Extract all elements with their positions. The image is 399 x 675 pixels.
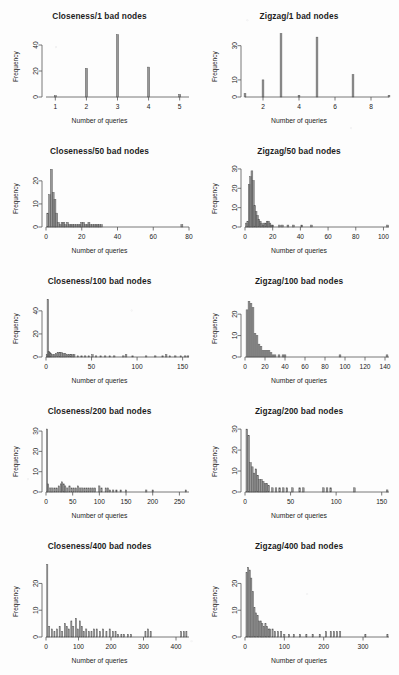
svg-text:20: 20 <box>32 330 39 338</box>
x-axis-label: Number of queries <box>0 117 199 124</box>
svg-text:3: 3 <box>116 103 120 110</box>
svg-text:10: 10 <box>231 606 238 614</box>
plot-panel: Zigzag/200 bad nodes 0501001500102030Num… <box>199 395 399 530</box>
y-axis-label: Frequency <box>211 446 218 477</box>
plot-title: Closeness/1 bad nodes <box>0 11 199 21</box>
figure-grid: Closeness/1 bad nodes 1234502040Number o… <box>0 0 399 675</box>
svg-text:0: 0 <box>32 635 39 639</box>
svg-text:400: 400 <box>170 643 181 650</box>
svg-text:40: 40 <box>114 233 122 240</box>
svg-text:50: 50 <box>69 498 77 505</box>
svg-text:20: 20 <box>32 447 39 455</box>
svg-text:5: 5 <box>178 103 182 110</box>
svg-text:300: 300 <box>358 643 369 650</box>
svg-text:8: 8 <box>369 103 373 110</box>
svg-text:20: 20 <box>231 310 238 318</box>
plot-title: Zigzag/400 bad nodes <box>199 541 399 551</box>
svg-text:0: 0 <box>231 355 238 359</box>
svg-text:0: 0 <box>231 95 238 99</box>
svg-text:20: 20 <box>231 446 238 454</box>
plot-panel: Closeness/50 bad nodes 02040608001020Num… <box>0 135 199 265</box>
svg-text:80: 80 <box>321 363 329 370</box>
svg-text:0: 0 <box>231 225 238 229</box>
plot-title: Zigzag/200 bad nodes <box>199 406 399 416</box>
svg-text:0: 0 <box>44 233 48 240</box>
plot-title: Zigzag/50 bad nodes <box>199 146 399 156</box>
svg-text:150: 150 <box>376 498 387 505</box>
plot-panel: Closeness/400 bad nodes 0100200300400010… <box>0 530 199 675</box>
svg-text:10: 10 <box>231 467 238 475</box>
svg-text:100: 100 <box>279 643 290 650</box>
svg-text:1: 1 <box>53 103 57 110</box>
svg-text:0: 0 <box>231 635 238 639</box>
plot-area: 0204060801000102030Number of queriesFreq… <box>199 159 399 265</box>
plot-title: Zigzag/100 bad nodes <box>199 276 399 286</box>
svg-text:30: 30 <box>231 165 238 173</box>
plot-panel: Zigzag/400 bad nodes 010020030001020Numb… <box>199 530 399 675</box>
svg-text:150: 150 <box>177 363 188 370</box>
svg-text:20: 20 <box>261 363 269 370</box>
svg-text:60: 60 <box>301 363 309 370</box>
svg-text:30: 30 <box>231 42 238 50</box>
svg-text:40: 40 <box>32 307 39 315</box>
svg-text:0: 0 <box>44 643 48 650</box>
svg-text:0: 0 <box>44 363 48 370</box>
svg-text:100: 100 <box>94 498 105 505</box>
svg-text:300: 300 <box>138 643 149 650</box>
svg-text:250: 250 <box>174 498 185 505</box>
svg-text:0: 0 <box>32 355 39 359</box>
svg-text:50: 50 <box>88 363 96 370</box>
svg-text:2: 2 <box>85 103 89 110</box>
plot-panel: Zigzag/1 bad nodes 246801030Number of qu… <box>199 0 399 135</box>
plot-area: 0501001502002500102030Number of queriesF… <box>0 419 199 530</box>
svg-text:20: 20 <box>32 67 39 75</box>
svg-text:0: 0 <box>243 643 247 650</box>
plot-title: Closeness/400 bad nodes <box>0 541 199 551</box>
plot-area: 010020030040001020Number of queriesFrequ… <box>0 554 199 675</box>
y-axis-label: Frequency <box>12 313 19 344</box>
svg-text:20: 20 <box>32 579 39 587</box>
plot-area: 010020030001020Number of queriesFrequenc… <box>199 554 399 675</box>
svg-text:10: 10 <box>231 204 238 212</box>
svg-text:40: 40 <box>32 41 39 49</box>
svg-text:150: 150 <box>121 498 132 505</box>
plot-panel: Zigzag/100 bad nodes 0204060801001201400… <box>199 265 399 395</box>
plot-panel: Closeness/100 bad nodes 05010015002040Nu… <box>0 265 199 395</box>
plot-title: Closeness/100 bad nodes <box>0 276 199 286</box>
svg-text:100: 100 <box>331 498 342 505</box>
svg-text:20: 20 <box>32 177 39 185</box>
svg-text:80: 80 <box>352 233 360 240</box>
svg-text:40: 40 <box>297 233 305 240</box>
y-axis-label: Frequency <box>12 183 19 214</box>
y-axis-label: Frequency <box>12 446 19 477</box>
svg-text:4: 4 <box>297 103 301 110</box>
svg-text:0: 0 <box>44 498 48 505</box>
y-axis-label: Frequency <box>211 51 218 82</box>
plot-title: Zigzag/1 bad nodes <box>199 11 399 21</box>
svg-text:100: 100 <box>73 643 84 650</box>
svg-text:80: 80 <box>185 233 193 240</box>
x-axis-label: Number of queries <box>199 377 399 384</box>
svg-text:0: 0 <box>243 363 247 370</box>
svg-text:4: 4 <box>147 103 151 110</box>
svg-text:10: 10 <box>32 468 39 476</box>
svg-text:30: 30 <box>231 425 238 433</box>
svg-text:200: 200 <box>105 643 116 650</box>
svg-text:20: 20 <box>231 579 238 587</box>
x-axis-label: Number of queries <box>0 657 199 664</box>
svg-text:10: 10 <box>32 606 39 614</box>
svg-text:20: 20 <box>269 233 277 240</box>
svg-text:0: 0 <box>231 490 238 494</box>
plot-panel: Closeness/1 bad nodes 1234502040Number o… <box>0 0 199 135</box>
svg-text:30: 30 <box>32 427 39 435</box>
svg-text:50: 50 <box>287 498 295 505</box>
plot-title: Closeness/50 bad nodes <box>0 146 199 156</box>
svg-text:40: 40 <box>281 363 289 370</box>
plot-area: 02040608010012014001020Number of queries… <box>199 289 399 395</box>
y-axis-label: Frequency <box>211 586 218 617</box>
y-axis-label: Frequency <box>12 586 19 617</box>
svg-text:2: 2 <box>261 103 265 110</box>
plot-area: 05010015002040Number of queriesFrequency <box>0 289 199 395</box>
y-axis-label: Frequency <box>211 313 218 344</box>
svg-text:60: 60 <box>150 233 158 240</box>
